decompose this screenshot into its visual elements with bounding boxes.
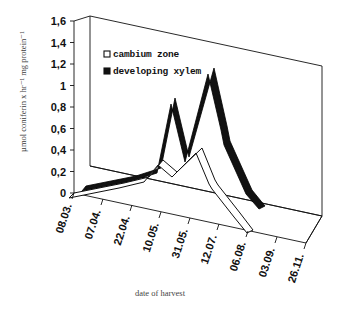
x-tick-label-0: 08.03. [53, 202, 74, 235]
y-tick-label-2: 1,2 [51, 58, 66, 70]
x-tick-7 [275, 237, 277, 243]
top-depth-edge [74, 16, 90, 21]
x-tick-4 [188, 218, 190, 224]
chart-container: 1,6 1,4 1,2 1 0,8 0,6 0,4 0,2 0 [0, 0, 340, 317]
y-tick-label-0: 1,6 [51, 15, 66, 27]
open-square-icon [104, 51, 110, 57]
x-tick-5 [217, 224, 219, 230]
chart-3d-frame [74, 16, 322, 243]
x-tick-label-1: 07.04. [82, 208, 103, 241]
y-axis-tick-labels: 1,6 1,4 1,2 1 0,8 0,6 0,4 0,2 0 [51, 15, 67, 199]
x-tick-label-7: 03.09. [256, 246, 277, 279]
x-tick-8 [304, 243, 306, 249]
x-axis-tick-labels: 08.03. 07.04. 22.04. 10.05. 31.05. 12.07… [53, 202, 306, 284]
y-tick-label-3: 1 [60, 80, 66, 92]
legend-label-developing-xylem: developing xylem [113, 66, 202, 77]
right-depth-edge [306, 216, 322, 243]
y-tick-label-7: 0,2 [51, 166, 66, 178]
y-tick-label-1: 1,4 [51, 37, 67, 49]
x-tick-3 [159, 212, 161, 218]
x-axis-ticks [72, 193, 306, 249]
x-tick-1 [101, 199, 103, 205]
x-tick-2 [130, 205, 132, 211]
y-tick-label-8: 0 [60, 187, 66, 199]
x-axis-title: date of harvest [135, 288, 186, 298]
y-axis-ticks [70, 21, 74, 193]
chart-legend: cambium zone developing xylem [104, 49, 202, 77]
y-tick-label-4: 0,8 [51, 101, 66, 113]
x-tick-label-4: 31.05. [169, 227, 190, 260]
filled-square-icon [104, 68, 110, 74]
y-tick-label-5: 0,6 [51, 123, 66, 135]
legend-label-cambium-zone: cambium zone [113, 49, 180, 60]
x-tick-label-8: 26.11. [285, 252, 306, 284]
x-tick-label-5: 12.07. [198, 233, 219, 266]
x-tick-label-3: 10.05. [140, 221, 161, 254]
chart-canvas: 1,6 1,4 1,2 1 0,8 0,6 0,4 0,2 0 [0, 0, 340, 317]
x-tick-label-6: 06.08. [227, 240, 248, 273]
y-tick-label-6: 0,4 [51, 144, 67, 156]
x-tick-label-2: 22.04. [111, 214, 132, 247]
floor-plane [74, 166, 322, 243]
y-axis-title: µmol coniferin x hr⁻¹ mg protein⁻¹ [18, 31, 28, 152]
